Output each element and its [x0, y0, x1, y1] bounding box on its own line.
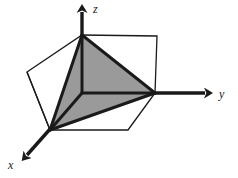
- figure-canvas: z y x: [0, 0, 238, 178]
- x-axis-label: x: [8, 159, 13, 171]
- z-axis-label: z: [93, 3, 98, 15]
- geometry-figure: [0, 0, 238, 178]
- cube-inner-edge: [27, 72, 50, 130]
- y-axis-label: y: [219, 88, 224, 100]
